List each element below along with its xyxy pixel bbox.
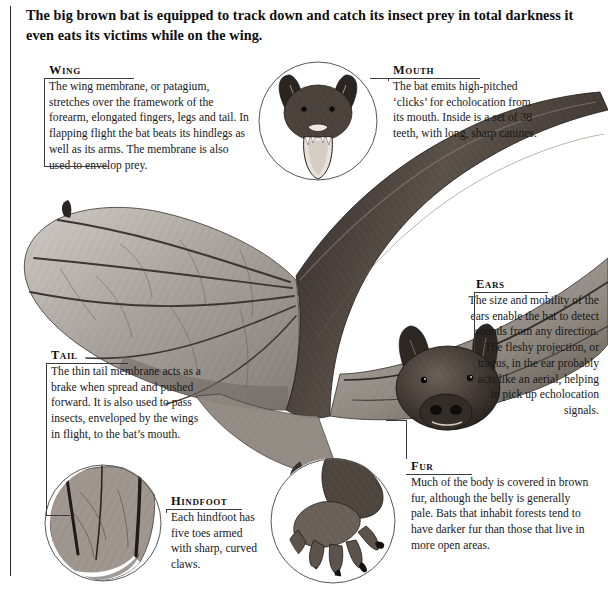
callout-ears-stem bbox=[474, 292, 475, 378]
callout-fur-body: Much of the body is covered in brown fur… bbox=[406, 475, 590, 554]
callout-ears-title: Ears bbox=[468, 277, 604, 292]
callout-mouth-title: Mouth bbox=[388, 63, 538, 78]
tail-inset-figure bbox=[44, 464, 162, 582]
callout-tail-leader bbox=[46, 515, 70, 516]
callout-tail-body: The thin tail membrane acts as a brake w… bbox=[46, 364, 206, 443]
callout-hindfoot-body: Each hindfoot has five toes armed with s… bbox=[166, 510, 258, 573]
callout-hindfoot-title: Hindfoot bbox=[166, 494, 258, 509]
callout-hindfoot: Hindfoot Each hindfoot has five toes arm… bbox=[166, 494, 258, 573]
hindfoot-inset-figure bbox=[270, 458, 396, 584]
callout-mouth-body: The bat emits high-pitched ‘clicks’ for … bbox=[388, 79, 538, 142]
callout-wing: Wing The wing membrane, or patagium, str… bbox=[44, 63, 249, 173]
callout-tail: Tail The thin tail membrane acts as a br… bbox=[46, 348, 206, 443]
mouth-inset-figure bbox=[258, 61, 378, 181]
callout-tail-stem bbox=[46, 363, 47, 515]
callout-ears-leader bbox=[474, 378, 488, 379]
callout-mouth-stem bbox=[388, 78, 389, 81]
page-title: The big brown bat is equipped to track d… bbox=[26, 5, 586, 45]
callout-mouth: Mouth The bat emits high-pitched ‘clicks… bbox=[388, 63, 538, 142]
callout-fur-title: Fur bbox=[406, 459, 590, 474]
callout-wing-title: Wing bbox=[44, 63, 249, 78]
callout-wing-stem bbox=[44, 78, 45, 166]
callout-ears: Ears The size and mobility of the ears e… bbox=[468, 277, 604, 419]
callout-wing-body: The wing membrane, or patagium, stretche… bbox=[44, 79, 249, 173]
callout-fur-leader bbox=[386, 420, 406, 421]
callout-tail-title: Tail bbox=[46, 348, 206, 363]
callout-hindfoot-stem bbox=[166, 509, 167, 513]
illustration-page: The big brown bat is equipped to track d… bbox=[0, 0, 608, 594]
callout-fur-stem bbox=[406, 420, 407, 459]
callout-ears-body: The size and mobility of the ears enable… bbox=[468, 293, 604, 419]
callout-fur: Fur Much of the body is covered in brown… bbox=[406, 459, 590, 554]
callout-wing-leader bbox=[44, 166, 108, 167]
callout-mouth-leader bbox=[370, 78, 388, 79]
